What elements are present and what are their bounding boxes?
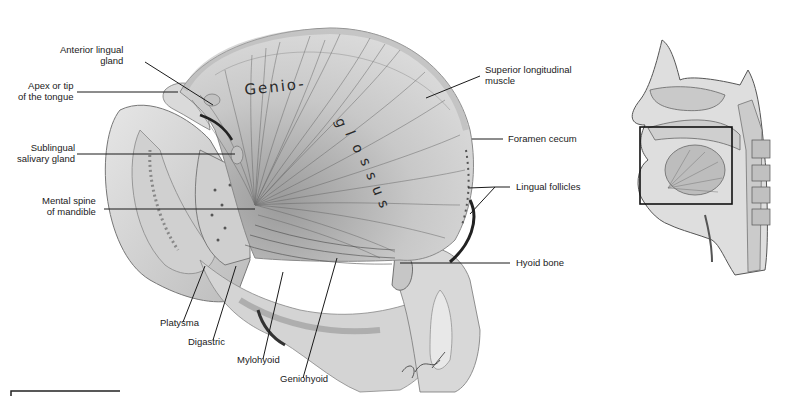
label-hyoid-bone: Hyoid bone xyxy=(516,257,564,268)
anatomy-figure: Genio- g l o s s u s xyxy=(0,0,786,396)
label-digastric: Digastric xyxy=(188,336,225,347)
label-foramen-cecum: Foramen cecum xyxy=(508,133,577,144)
label-apex-of-tongue: Apex or tip of the tongue xyxy=(18,80,73,102)
label-mylohyoid: Mylohyoid xyxy=(237,354,280,365)
label-platysma: Platysma xyxy=(160,317,199,328)
frame-corner xyxy=(11,391,120,396)
label-lingual-follicles: Lingual follicles xyxy=(516,181,580,192)
label-geniohyoid: Geniohyoid xyxy=(280,373,328,384)
label-superior-longitudinal-muscle: Superior longitudinal muscle xyxy=(485,64,572,86)
label-sublingual-gland: Sublingual salivary gland xyxy=(17,142,75,164)
label-mental-spine: Mental spine of mandible xyxy=(42,195,96,217)
label-anterior-lingual-gland: Anterior lingual gland xyxy=(60,44,123,66)
inset-head-diagram xyxy=(632,40,770,275)
